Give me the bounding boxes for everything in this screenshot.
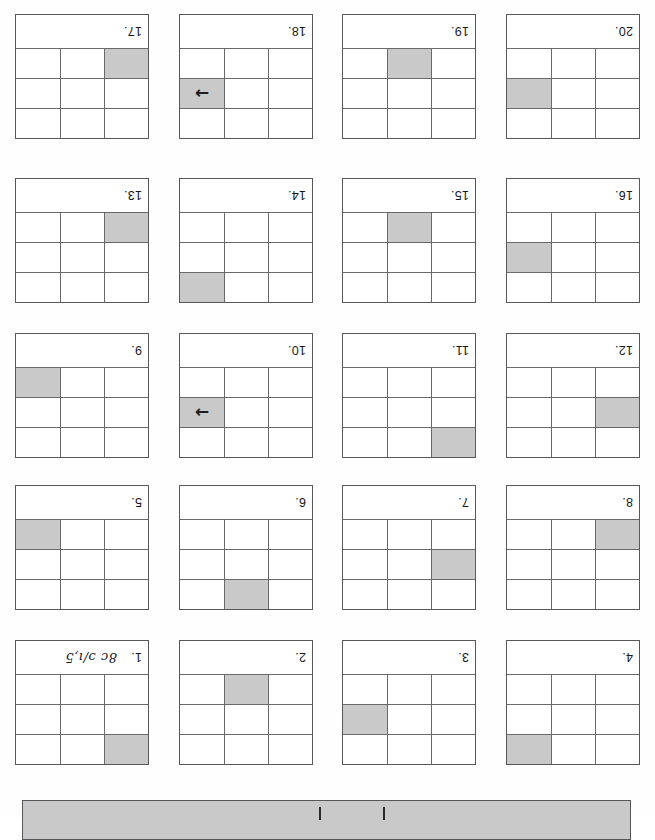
- grid-cell[interactable]: [595, 272, 639, 302]
- grid-cell[interactable]: [551, 242, 595, 272]
- grid-cell[interactable]: [387, 674, 431, 704]
- grid-cell[interactable]: [224, 48, 268, 78]
- grid-cell[interactable]: [431, 674, 475, 704]
- grid-cell[interactable]: [343, 48, 387, 78]
- grid-cell[interactable]: [507, 212, 551, 242]
- grid-cell[interactable]: [595, 242, 639, 272]
- grid-cell[interactable]: [104, 242, 148, 272]
- grid-cell[interactable]: [16, 674, 60, 704]
- grid-cell[interactable]: [268, 367, 312, 397]
- worksheet-box[interactable]: 2.: [179, 640, 313, 765]
- grid-cell[interactable]: [60, 549, 104, 579]
- grid-cell[interactable]: [431, 519, 475, 549]
- grid-cell[interactable]: [60, 367, 104, 397]
- grid-cell[interactable]: [16, 704, 60, 734]
- grid-cell[interactable]: [595, 549, 639, 579]
- grid-cell[interactable]: [60, 397, 104, 427]
- grid-cell-shaded[interactable]: [507, 242, 551, 272]
- grid-cell[interactable]: [431, 704, 475, 734]
- grid-cell[interactable]: [268, 48, 312, 78]
- grid-cell[interactable]: [224, 272, 268, 302]
- grid-cell[interactable]: [551, 734, 595, 764]
- grid-cell[interactable]: [343, 734, 387, 764]
- grid-cell-shaded[interactable]: →: [180, 397, 224, 427]
- grid-cell-shaded[interactable]: [507, 78, 551, 108]
- worksheet-box[interactable]: →10.: [179, 333, 313, 458]
- grid-cell[interactable]: [104, 78, 148, 108]
- grid-cell[interactable]: [268, 734, 312, 764]
- grid-cell[interactable]: [343, 519, 387, 549]
- grid-cell[interactable]: [60, 242, 104, 272]
- grid-cell[interactable]: [180, 579, 224, 609]
- grid-cell-shaded[interactable]: [507, 734, 551, 764]
- grid-cell-shaded[interactable]: [104, 48, 148, 78]
- grid-cell[interactable]: [104, 674, 148, 704]
- grid-cell[interactable]: [387, 78, 431, 108]
- grid-cell[interactable]: [60, 674, 104, 704]
- grid-cell[interactable]: [16, 579, 60, 609]
- grid-cell[interactable]: [343, 549, 387, 579]
- grid-cell[interactable]: [16, 397, 60, 427]
- grid-cell-shaded[interactable]: [343, 704, 387, 734]
- grid-cell[interactable]: [387, 367, 431, 397]
- worksheet-box[interactable]: 9.: [15, 333, 149, 458]
- worksheet-box[interactable]: →18.: [179, 14, 313, 139]
- grid-cell[interactable]: [16, 734, 60, 764]
- grid-cell[interactable]: [60, 427, 104, 457]
- grid-cell[interactable]: [387, 704, 431, 734]
- grid-cell[interactable]: [16, 549, 60, 579]
- grid-cell[interactable]: [507, 674, 551, 704]
- grid-cell[interactable]: [180, 427, 224, 457]
- worksheet-box[interactable]: 6.: [179, 485, 313, 610]
- worksheet-box[interactable]: 20.: [506, 14, 640, 139]
- grid-cell-shaded[interactable]: [595, 397, 639, 427]
- grid-cell[interactable]: [507, 397, 551, 427]
- grid-cell[interactable]: [387, 108, 431, 138]
- worksheet-box[interactable]: 19.: [342, 14, 476, 139]
- grid-cell-shaded[interactable]: [180, 272, 224, 302]
- grid-cell[interactable]: [551, 78, 595, 108]
- grid-cell[interactable]: [507, 549, 551, 579]
- grid-cell[interactable]: [180, 108, 224, 138]
- grid-cell[interactable]: [595, 78, 639, 108]
- grid-cell[interactable]: [16, 272, 60, 302]
- grid-cell[interactable]: [343, 427, 387, 457]
- grid-cell[interactable]: [104, 427, 148, 457]
- grid-cell[interactable]: [595, 427, 639, 457]
- grid-cell[interactable]: [60, 78, 104, 108]
- grid-cell[interactable]: [16, 48, 60, 78]
- grid-cell[interactable]: [224, 212, 268, 242]
- grid-cell[interactable]: [224, 242, 268, 272]
- grid-cell[interactable]: [551, 397, 595, 427]
- grid-cell-shaded[interactable]: [104, 212, 148, 242]
- grid-cell[interactable]: [551, 212, 595, 242]
- grid-cell-shaded[interactable]: [595, 519, 639, 549]
- grid-cell[interactable]: [224, 549, 268, 579]
- grid-cell[interactable]: [343, 272, 387, 302]
- grid-cell[interactable]: [551, 674, 595, 704]
- grid-cell[interactable]: [595, 734, 639, 764]
- grid-cell-shaded[interactable]: →: [180, 78, 224, 108]
- grid-cell[interactable]: [387, 427, 431, 457]
- grid-cell[interactable]: [387, 734, 431, 764]
- grid-cell[interactable]: [551, 272, 595, 302]
- grid-cell[interactable]: [431, 734, 475, 764]
- grid-cell[interactable]: [224, 427, 268, 457]
- grid-cell[interactable]: [180, 212, 224, 242]
- grid-cell[interactable]: [60, 704, 104, 734]
- worksheet-box[interactable]: 16.: [506, 178, 640, 303]
- grid-cell[interactable]: [60, 108, 104, 138]
- grid-cell[interactable]: [507, 704, 551, 734]
- grid-cell[interactable]: [551, 367, 595, 397]
- grid-cell-shaded[interactable]: [431, 549, 475, 579]
- grid-cell[interactable]: [431, 108, 475, 138]
- grid-cell-shaded[interactable]: [387, 212, 431, 242]
- grid-cell[interactable]: [343, 78, 387, 108]
- grid-cell[interactable]: [551, 108, 595, 138]
- grid-cell[interactable]: [104, 272, 148, 302]
- grid-cell-shaded[interactable]: [387, 48, 431, 78]
- grid-cell[interactable]: [431, 212, 475, 242]
- grid-cell[interactable]: [16, 108, 60, 138]
- worksheet-box[interactable]: 14.: [179, 178, 313, 303]
- grid-cell[interactable]: [60, 519, 104, 549]
